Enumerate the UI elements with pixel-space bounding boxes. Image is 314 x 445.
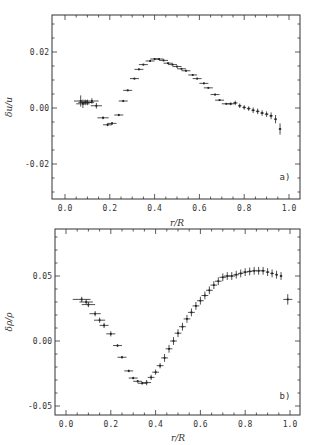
- data-point: [266, 268, 270, 276]
- x-tick-label: 0.4: [148, 420, 163, 429]
- marker: [173, 340, 175, 342]
- x-axis-label: r/R: [171, 433, 185, 443]
- marker: [150, 377, 152, 379]
- marker: [186, 318, 188, 320]
- marker: [252, 109, 254, 111]
- y-tick-label: -0.05: [28, 402, 52, 411]
- marker: [203, 82, 205, 84]
- marker: [182, 326, 184, 328]
- marker: [132, 377, 134, 379]
- data-point: [215, 277, 222, 285]
- marker: [163, 60, 165, 62]
- marker: [204, 295, 206, 297]
- marker: [80, 100, 82, 102]
- data-point: [129, 377, 138, 380]
- marker: [149, 60, 151, 62]
- data-point: [103, 123, 112, 126]
- y-tick-label: 0.02: [30, 48, 49, 57]
- marker: [200, 300, 202, 302]
- marker: [172, 64, 174, 66]
- marker: [82, 103, 84, 105]
- data-point: [228, 272, 235, 280]
- marker: [262, 270, 264, 272]
- data-point: [90, 311, 101, 316]
- marker: [110, 333, 112, 335]
- marker: [258, 270, 260, 272]
- x-tick-label: 0.6: [193, 420, 208, 429]
- marker: [111, 123, 113, 125]
- marker: [137, 380, 139, 382]
- data-point: [204, 87, 213, 89]
- marker: [117, 345, 119, 347]
- data-point: [247, 268, 252, 276]
- data-point: [283, 294, 292, 304]
- data-point: [256, 109, 260, 115]
- marker: [226, 275, 228, 277]
- data-point: [155, 58, 164, 60]
- data-point: [269, 112, 273, 119]
- y-axis-label: δu/u: [4, 97, 14, 117]
- data-point: [243, 268, 248, 276]
- data-point: [202, 292, 209, 300]
- marker: [85, 301, 87, 303]
- marker: [225, 103, 227, 105]
- marker: [102, 117, 104, 119]
- data-point: [100, 323, 109, 328]
- marker: [81, 299, 83, 301]
- data-point: [261, 267, 265, 275]
- panel-b: 0.00.20.40.60.81.0-0.050.000.05r/Rδρ/ρb): [4, 229, 300, 443]
- data-point: [238, 270, 243, 278]
- marker: [128, 370, 130, 372]
- marker: [167, 62, 169, 64]
- marker: [87, 102, 89, 104]
- data-point: [275, 271, 278, 279]
- marker: [177, 332, 179, 334]
- marker: [279, 128, 281, 130]
- data-point: [124, 370, 133, 373]
- marker: [214, 94, 216, 96]
- data-point: [173, 66, 182, 68]
- data-point: [197, 297, 204, 305]
- marker: [257, 110, 259, 112]
- marker: [280, 275, 282, 277]
- marker: [253, 270, 255, 272]
- data-point: [114, 114, 123, 116]
- marker: [267, 271, 269, 273]
- y-tick-label: 0.00: [33, 337, 52, 346]
- data-point: [238, 104, 242, 108]
- marker: [88, 304, 90, 306]
- data-point: [181, 70, 190, 72]
- marker: [248, 108, 250, 110]
- marker: [118, 114, 120, 116]
- marker: [276, 274, 278, 276]
- data-point: [142, 380, 151, 385]
- marker: [261, 112, 263, 114]
- marker: [270, 115, 272, 117]
- marker: [122, 100, 124, 102]
- data-point: [91, 103, 102, 109]
- marker: [185, 70, 187, 72]
- panel-a: 0.00.20.40.60.81.0-0.020.000.02r/Rδu/ua): [4, 15, 300, 228]
- data-point: [199, 82, 208, 84]
- marker: [287, 299, 289, 301]
- plot-frame: [55, 229, 300, 415]
- data-point: [134, 68, 143, 70]
- marker: [158, 58, 160, 60]
- marker: [249, 271, 251, 273]
- marker: [239, 105, 241, 107]
- marker: [99, 319, 101, 321]
- data-point: [139, 64, 148, 66]
- marker: [219, 99, 221, 101]
- marker: [213, 284, 215, 286]
- data-point: [108, 122, 117, 125]
- y-tick-label: 0.00: [30, 104, 49, 113]
- data-point: [206, 286, 213, 294]
- marker: [103, 325, 105, 327]
- data-point: [170, 337, 177, 345]
- marker: [235, 274, 237, 276]
- data-point: [106, 331, 115, 336]
- marker: [244, 271, 246, 273]
- data-point: [233, 101, 237, 105]
- data-point: [280, 272, 283, 280]
- data-point: [168, 64, 177, 66]
